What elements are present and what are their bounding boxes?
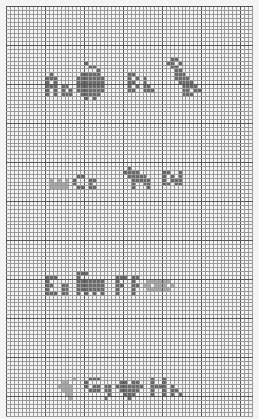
cross-stitch-grid <box>6 6 253 417</box>
stitch-canvas <box>6 6 253 417</box>
pattern-sheet: Cross-stitch alphabet sampler A–H Aa Bb … <box>0 0 259 419</box>
